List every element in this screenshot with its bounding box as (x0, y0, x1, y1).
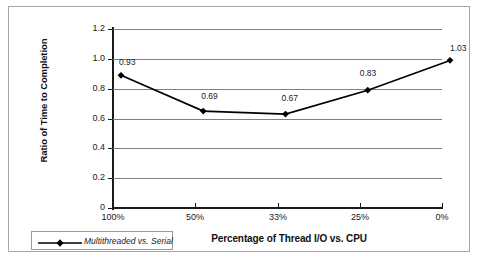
y-tick-mark (108, 59, 113, 60)
data-point-label: 0.69 (201, 92, 218, 101)
x-tick-mark (195, 203, 196, 208)
y-tick-label: 1.0 (71, 54, 105, 63)
gridline (113, 119, 442, 120)
x-tick-label: 0% (412, 212, 472, 222)
y-tick-mark (108, 178, 113, 179)
x-tick-mark (113, 203, 114, 208)
gridline (113, 89, 442, 90)
data-point-marker (200, 108, 207, 115)
data-point-marker (364, 87, 371, 94)
data-point-marker (282, 111, 289, 118)
x-tick-mark (278, 203, 279, 208)
y-tick-mark (108, 89, 113, 90)
chart-figure: Ratio of Time to Completion Percentage o… (0, 0, 484, 264)
x-tick-mark (442, 203, 443, 208)
x-tick-label: 25% (330, 212, 390, 222)
chart-legend: Multithreaded vs. Serial (31, 231, 173, 250)
y-tick-mark (108, 208, 113, 209)
x-tick-mark (360, 203, 361, 208)
y-tick-label: 1.2 (71, 24, 105, 33)
y-tick-label: 0.6 (71, 114, 105, 123)
x-tick-label: 33% (248, 212, 308, 222)
y-tick-label: 0.4 (71, 143, 105, 152)
data-point-marker (118, 72, 125, 79)
y-tick-mark (108, 29, 113, 30)
series-line-multithreaded-vs-serial (9, 7, 484, 264)
y-tick-mark (108, 119, 113, 120)
x-axis-title: Percentage of Thread I/O vs. CPU (189, 233, 389, 244)
data-point-label: 0.83 (360, 69, 377, 78)
y-tick-mark (108, 148, 113, 149)
data-point-label: 1.03 (450, 44, 467, 53)
data-point-label: 0.67 (282, 94, 299, 103)
gridline (113, 29, 442, 30)
y-axis-title: Ratio of Time to Completion (38, 21, 49, 181)
y-tick-label: 0.2 (71, 173, 105, 182)
gridline (113, 59, 442, 60)
legend-marker-icon (38, 235, 82, 247)
data-point-marker (447, 57, 454, 64)
y-tick-label: 0 (71, 203, 105, 212)
gridline (113, 148, 442, 149)
legend-label: Multithreaded vs. Serial (84, 236, 173, 246)
x-tick-label: 50% (165, 212, 225, 222)
x-tick-label: 100% (83, 212, 143, 222)
data-point-label: 0.93 (119, 58, 136, 67)
figure-border: Ratio of Time to Completion Percentage o… (8, 6, 470, 252)
gridline (113, 178, 442, 179)
y-tick-label: 0.8 (71, 84, 105, 93)
